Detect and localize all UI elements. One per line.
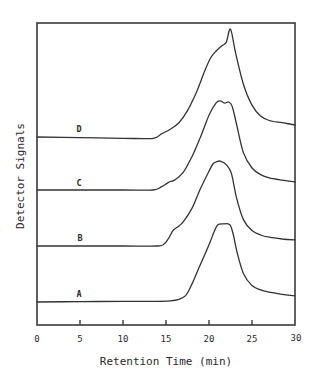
trace-label-C: C [76, 178, 81, 188]
trace-label-D: D [76, 124, 81, 134]
trace-label-A: A [76, 289, 81, 299]
trace-C [37, 101, 295, 190]
x-axis-title: Retention Time (min) [100, 355, 232, 368]
x-axis-tick-labels: 0 5 10 15 20 25 30 [34, 333, 301, 344]
y-axis-title: Detector Signals [14, 123, 27, 229]
x-tick-label-25: 25 [247, 334, 258, 344]
x-tick-label-10: 10 [118, 334, 129, 344]
trace-D [37, 29, 295, 139]
x-tick-label-0: 0 [34, 334, 39, 344]
trace-label-B: B [77, 233, 82, 243]
chromatogram-traces [37, 29, 295, 302]
x-tick-label-15: 15 [161, 334, 172, 344]
x-tick-label-5: 5 [77, 334, 82, 344]
plot-frame [37, 23, 295, 325]
x-tick-label-20: 20 [204, 334, 215, 344]
chromatogram-chart: 0 5 10 15 20 25 30 A B C D Retention Tim… [0, 0, 318, 384]
trace-labels: A B C D [76, 124, 82, 299]
x-tick-label-30: 30 [291, 333, 302, 343]
trace-B [37, 161, 295, 246]
